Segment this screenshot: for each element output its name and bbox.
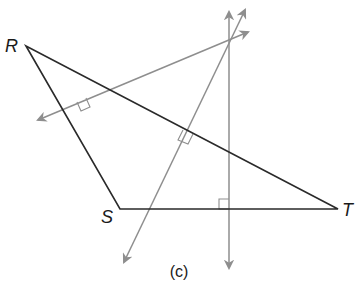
vertex-label-t: T	[342, 200, 355, 220]
vertex-label-r: R	[5, 36, 18, 56]
triangle-rst	[26, 46, 338, 209]
vertex-label-s: S	[101, 207, 113, 227]
perpendicular-line-rt	[124, 10, 245, 262]
right-angle-mark-st	[219, 199, 229, 209]
right-angle-mark-rs	[77, 98, 90, 111]
figure-caption: (c)	[170, 263, 189, 280]
triangle-diagram: R S T (c)	[0, 0, 358, 285]
